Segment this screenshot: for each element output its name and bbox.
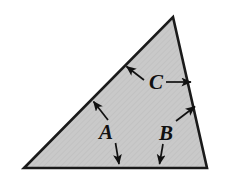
label-c-text: C bbox=[149, 70, 164, 94]
label-a-text: A bbox=[97, 120, 113, 144]
label-b-text: B bbox=[158, 121, 173, 145]
figure-canvas: A B C bbox=[0, 0, 230, 182]
triangle-diagram-svg: A B C bbox=[0, 0, 230, 182]
